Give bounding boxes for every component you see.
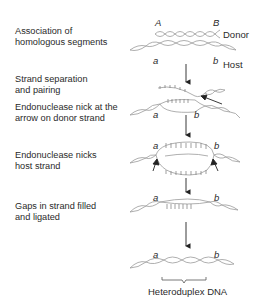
label-donor-B: B <box>213 17 219 28</box>
recombination-diagram <box>0 0 262 299</box>
stage3-label-a: a <box>153 140 158 151</box>
stage4-strands <box>130 199 238 212</box>
stage2-label-a: a <box>153 109 158 120</box>
stage2-label-b: b <box>194 109 199 120</box>
stage3-label-b: b <box>214 140 219 151</box>
donor-helix <box>155 30 220 38</box>
label-host: Host <box>223 59 243 70</box>
stage4-base-pairs <box>167 204 191 209</box>
stage4-label-a: a <box>153 192 158 203</box>
label-host-b: b <box>213 55 218 66</box>
donor-nick-arrow <box>204 97 222 104</box>
label-host-a: a <box>153 55 158 66</box>
heteroduplex-label: Heteroduplex DNA <box>148 286 227 297</box>
label-donor-A: A <box>155 17 161 28</box>
stage4-label-b: b <box>214 192 219 203</box>
stage5-label-a: a <box>153 249 158 260</box>
host-helix <box>130 41 236 51</box>
label-donor: Donor <box>223 29 249 40</box>
stage3-base-pairs <box>166 143 206 175</box>
stage3-strands <box>130 142 240 175</box>
heteroduplex-brace <box>162 277 206 283</box>
stage5-label-b: b <box>214 249 219 260</box>
